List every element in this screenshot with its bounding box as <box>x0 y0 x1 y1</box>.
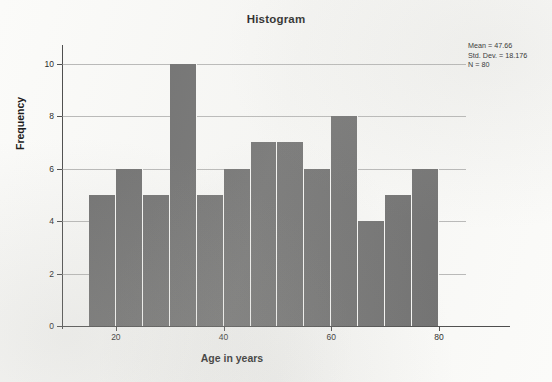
histogram-bar <box>277 142 304 326</box>
y-tick-mark <box>57 116 62 117</box>
y-axis-tick-labels: 0246810 <box>10 0 54 382</box>
y-tick-mark <box>57 221 62 222</box>
histogram-bar <box>170 64 197 326</box>
x-tick-mark <box>439 327 440 331</box>
y-axis-title: Frequency <box>14 97 26 150</box>
histogram-bar <box>89 195 116 326</box>
x-tick-mark <box>116 327 117 331</box>
y-tick-mark <box>57 274 62 275</box>
histogram-bar <box>412 169 439 326</box>
histogram-chart: Histogram 0246810 20406080 Frequency Age… <box>0 0 552 382</box>
x-tick-label-20: 20 <box>101 332 131 342</box>
x-axis-line <box>62 326 510 327</box>
gridline <box>62 64 466 65</box>
histogram-bar <box>385 195 412 326</box>
y-tick-mark <box>57 169 62 170</box>
histogram-bar <box>358 221 385 326</box>
y-tick-label-0: 0 <box>14 321 54 331</box>
y-tick-mark <box>57 64 62 65</box>
stat-n: N = 80 <box>468 60 552 70</box>
histogram-bar <box>224 169 251 326</box>
statistics-annotation: Mean = 47.66 Std. Dev. = 18.176 N = 80 <box>468 41 552 70</box>
histogram-bar <box>197 195 224 326</box>
histogram-bar <box>143 195 170 326</box>
histogram-bar <box>331 116 358 326</box>
x-tick-label-40: 40 <box>209 332 239 342</box>
chart-title: Histogram <box>0 13 552 25</box>
histogram-bar <box>304 169 331 326</box>
y-tick-label-2: 2 <box>14 269 54 279</box>
x-tick-label-80: 80 <box>424 332 454 342</box>
histogram-bar <box>251 142 278 326</box>
stat-std-dev: Std. Dev. = 18.176 <box>468 51 552 61</box>
histogram-bar <box>116 169 143 326</box>
gridline <box>62 116 466 117</box>
stat-mean: Mean = 47.66 <box>468 41 552 51</box>
x-axis-title: Age in years <box>62 352 402 364</box>
plot-area <box>62 48 466 326</box>
x-tick-label-60: 60 <box>316 332 346 342</box>
y-tick-label-10: 10 <box>14 59 54 69</box>
x-tick-mark <box>224 327 225 331</box>
y-tick-mark <box>57 326 62 327</box>
x-tick-mark <box>331 327 332 331</box>
y-tick-label-6: 6 <box>14 164 54 174</box>
y-tick-label-4: 4 <box>14 216 54 226</box>
